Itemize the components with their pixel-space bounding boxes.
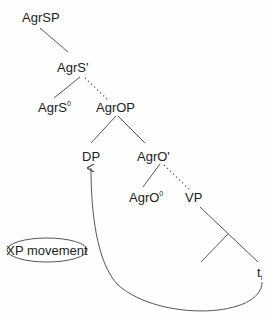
node-dp: DP	[82, 149, 100, 164]
tree-svg: AgrSP AgrS' AgrS0 AgrOP DP AgrO' AgrO0 V…	[0, 0, 271, 316]
edge-agrobar-vp	[164, 165, 189, 189]
edge-agrsbar-agrop	[85, 78, 108, 100]
edge-agrop-dp	[91, 116, 116, 143]
movement-arrow	[91, 168, 262, 311]
node-agro0: AgrO0	[129, 190, 163, 205]
syntax-tree-diagram: AgrSP AgrS' AgrS0 AgrOP DP AgrO' AgrO0 V…	[0, 0, 271, 316]
node-agrs0: AgrS0	[38, 100, 71, 115]
node-vp: VP	[185, 190, 202, 205]
node-agrs-bar: AgrS'	[57, 60, 88, 75]
edge-agrop-agrobar	[118, 116, 145, 143]
node-trace: ti	[257, 265, 263, 281]
node-agrop: AgrOP	[96, 100, 135, 115]
edge-agrobar-agro0	[143, 164, 160, 187]
legend-label: XP movement	[6, 243, 88, 258]
edge-agrsp-agrsbar	[40, 28, 68, 52]
edge-agrsbar-agrs0	[54, 77, 80, 98]
node-agrsp: AgrSP	[22, 10, 60, 25]
edge-vp-branch-left	[201, 234, 228, 262]
node-agro-bar: AgrO'	[137, 149, 170, 164]
